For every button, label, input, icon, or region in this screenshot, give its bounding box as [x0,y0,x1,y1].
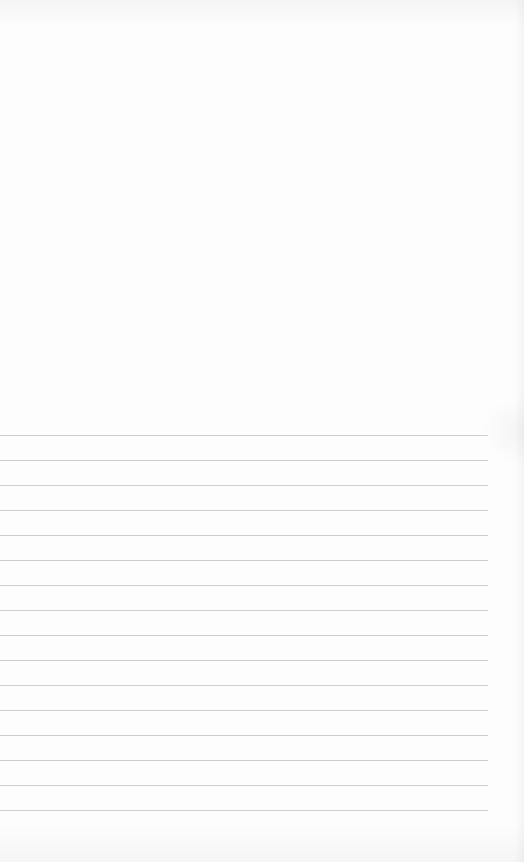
ruled-line [0,635,488,636]
ruled-line [0,585,488,586]
ruled-line [0,610,488,611]
paper-right-edge-shadow [514,0,524,862]
ruled-line [0,660,488,661]
ruled-line [0,760,488,761]
ruled-line [0,510,488,511]
ruled-line [0,535,488,536]
ruled-line [0,685,488,686]
notepaper-page [0,0,524,862]
ruled-line [0,560,488,561]
ruled-line [0,485,488,486]
ruled-lines-area [0,0,488,862]
ruled-line [0,785,488,786]
ruled-line [0,810,488,811]
ruled-line [0,735,488,736]
ruled-line [0,435,488,436]
ruled-line [0,710,488,711]
ruled-line [0,460,488,461]
